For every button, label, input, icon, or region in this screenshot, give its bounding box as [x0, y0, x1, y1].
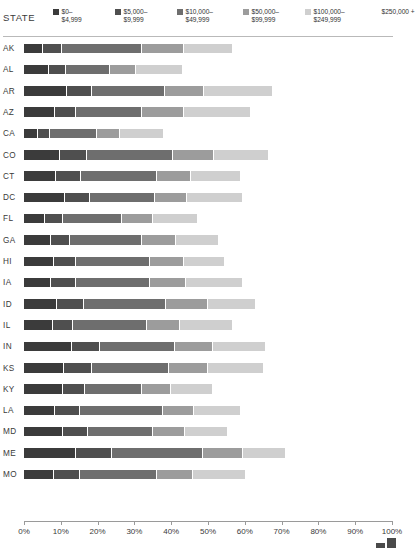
bar-segment[interactable]	[214, 150, 268, 160]
chart-row[interactable]: AZ	[0, 104, 402, 125]
bar-segment[interactable]	[24, 406, 55, 416]
chart-row[interactable]: AL	[0, 61, 402, 82]
stacked-bar[interactable]	[24, 257, 392, 267]
bar-segment[interactable]	[157, 171, 191, 181]
chart-row[interactable]: AK	[0, 40, 402, 61]
bar-segment[interactable]	[208, 363, 263, 373]
bar-segment[interactable]	[24, 470, 54, 480]
stacked-bar[interactable]	[24, 278, 392, 288]
bar-segment[interactable]	[92, 86, 165, 96]
stacked-bar[interactable]	[24, 342, 392, 352]
chart-row[interactable]: HI	[0, 253, 402, 274]
bar-segment[interactable]	[176, 235, 218, 245]
bar-segment[interactable]	[67, 86, 92, 96]
stacked-bar[interactable]	[24, 44, 392, 54]
chart-row[interactable]: MO	[0, 466, 402, 487]
bar-segment[interactable]	[153, 214, 197, 224]
bar-segment[interactable]	[45, 214, 63, 224]
bar-segment[interactable]	[150, 257, 184, 267]
bar-segment[interactable]	[120, 129, 163, 139]
bar-segment[interactable]	[184, 257, 224, 267]
bar-segment[interactable]	[24, 193, 65, 203]
bar-segment[interactable]	[24, 150, 60, 160]
bar-segment[interactable]	[203, 448, 243, 458]
legend-item-5[interactable]: $250,000 +	[373, 8, 415, 16]
bar-segment[interactable]	[180, 320, 232, 330]
bar-segment[interactable]	[194, 406, 240, 416]
chart-row[interactable]: ME	[0, 445, 402, 466]
bar-segment[interactable]	[187, 193, 242, 203]
stacked-bar[interactable]	[24, 214, 392, 224]
bar-segment[interactable]	[76, 278, 150, 288]
bar-segment[interactable]	[142, 44, 184, 54]
bar-segment[interactable]	[70, 235, 142, 245]
bar-segment[interactable]	[24, 278, 51, 288]
bar-segment[interactable]	[24, 44, 43, 54]
bar-segment[interactable]	[191, 171, 240, 181]
bar-segment[interactable]	[88, 427, 153, 437]
stacked-bar[interactable]	[24, 171, 392, 181]
bar-segment[interactable]	[184, 107, 250, 117]
stacked-bar[interactable]	[24, 193, 392, 203]
chart-row[interactable]: DC	[0, 189, 402, 210]
bar-segment[interactable]	[24, 384, 63, 394]
bar-segment[interactable]	[122, 214, 153, 224]
bar-segment[interactable]	[24, 65, 49, 75]
bar-segment[interactable]	[185, 427, 227, 437]
bar-segment[interactable]	[150, 278, 186, 288]
bar-segment[interactable]	[66, 65, 110, 75]
bar-segment[interactable]	[112, 448, 203, 458]
bar-segment[interactable]	[24, 299, 57, 309]
bar-segment[interactable]	[54, 257, 76, 267]
bar-segment[interactable]	[136, 65, 182, 75]
stacked-bar[interactable]	[24, 363, 392, 373]
stacked-bar[interactable]	[24, 107, 392, 117]
bar-segment[interactable]	[76, 257, 150, 267]
bar-segment[interactable]	[142, 235, 176, 245]
bar-segment[interactable]	[65, 193, 90, 203]
bar-segment[interactable]	[24, 129, 38, 139]
bar-segment[interactable]	[76, 448, 112, 458]
chart-row[interactable]: LA	[0, 402, 402, 423]
chart-row[interactable]: GA	[0, 232, 402, 253]
chart-row[interactable]: ID	[0, 296, 402, 317]
stacked-bar[interactable]	[24, 470, 392, 480]
bar-segment[interactable]	[147, 320, 180, 330]
bar-segment[interactable]	[204, 86, 272, 96]
bar-segment[interactable]	[157, 470, 193, 480]
bar-segment[interactable]	[51, 235, 70, 245]
bar-segment[interactable]	[90, 193, 155, 203]
legend-item-4[interactable]: $100,000–$249,999	[305, 8, 345, 25]
bar-segment[interactable]	[84, 299, 166, 309]
bar-segment[interactable]	[54, 470, 80, 480]
bar-segment[interactable]	[80, 406, 163, 416]
bar-segment[interactable]	[24, 257, 54, 267]
bar-segment[interactable]	[24, 107, 55, 117]
bar-segment[interactable]	[100, 342, 175, 352]
bar-segment[interactable]	[62, 44, 142, 54]
stacked-bar[interactable]	[24, 129, 392, 139]
bar-segment[interactable]	[24, 320, 53, 330]
legend-item-1[interactable]: $5,000–$9,999	[115, 8, 147, 25]
chart-row[interactable]: KS	[0, 360, 402, 381]
stacked-bar[interactable]	[24, 65, 392, 75]
bar-segment[interactable]	[51, 278, 76, 288]
bar-segment[interactable]	[155, 193, 187, 203]
bar-segment[interactable]	[81, 171, 157, 181]
chart-row[interactable]: IL	[0, 317, 402, 338]
bar-segment[interactable]	[53, 320, 73, 330]
bar-segment[interactable]	[208, 299, 255, 309]
bar-segment[interactable]	[63, 384, 85, 394]
bar-segment[interactable]	[63, 427, 88, 437]
bar-segment[interactable]	[55, 107, 76, 117]
chart-row[interactable]: CA	[0, 125, 402, 146]
bar-segment[interactable]	[85, 384, 142, 394]
stacked-bar[interactable]	[24, 235, 392, 245]
bar-segment[interactable]	[55, 406, 80, 416]
stacked-bar[interactable]	[24, 384, 392, 394]
bar-segment[interactable]	[24, 235, 51, 245]
bar-segment[interactable]	[169, 363, 208, 373]
bar-segment[interactable]	[60, 150, 87, 160]
bar-segment[interactable]	[24, 448, 76, 458]
stacked-bar[interactable]	[24, 406, 392, 416]
